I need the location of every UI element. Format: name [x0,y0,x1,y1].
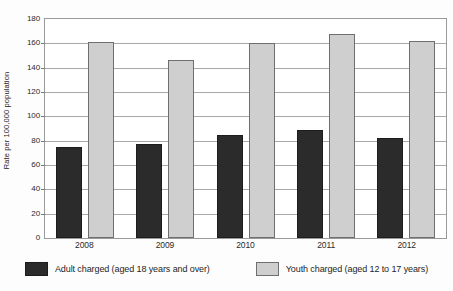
bar-adult-2009[interactable] [136,144,162,238]
y-tick-label-180: 180 [27,14,40,23]
y-tick-label-140: 140 [27,62,40,71]
bar-adult-2012[interactable] [377,138,403,238]
plot-wrapper: 180 160 140 120 100 80 60 40 20 0 [17,12,447,240]
legend-label-youth: Youth charged (aged 12 to 17 years) [286,264,428,274]
legend-swatch-youth-icon [256,262,279,276]
x-tick-label-2012: 2012 [366,240,447,250]
y-tick-label-100: 100 [27,111,40,120]
bar-youth-2008[interactable] [88,42,114,238]
bar-group-2012 [366,19,446,238]
bar-group-2010 [205,19,285,238]
y-tick-label-80: 80 [31,135,40,144]
y-tick-label-160: 160 [27,38,40,47]
x-tick-label-2010: 2010 [205,240,286,250]
y-tick-label-20: 20 [31,208,40,217]
bar-youth-2010[interactable] [249,43,275,238]
bar-adult-2008[interactable] [56,147,82,238]
y-axis-title-text: Rate per 100,000 population [3,71,12,168]
y-tick-label-60: 60 [31,160,40,169]
y-tick-label-0: 0 [36,233,40,242]
x-tick-label-2009: 2009 [125,240,206,250]
bar-group-2011 [286,19,366,238]
bar-youth-2009[interactable] [168,60,194,238]
chart-legend: Adult charged (aged 18 years and over) Y… [0,262,453,276]
bar-group-2008 [45,19,125,238]
x-tick-label-2011: 2011 [286,240,367,250]
bar-youth-2012[interactable] [409,41,435,238]
plot-area [44,18,447,239]
x-tick-label-2008: 2008 [44,240,125,250]
bar-chart: Rate per 100,000 population 180 160 140 … [0,0,453,291]
bar-youth-2011[interactable] [329,34,355,238]
bar-adult-2011[interactable] [297,130,323,238]
y-tick-label-120: 120 [27,87,40,96]
bar-adult-2010[interactable] [217,135,243,238]
y-axis-title: Rate per 100,000 population [0,0,14,240]
legend-label-adult: Adult charged (aged 18 years and over) [55,264,210,274]
legend-item-adult[interactable]: Adult charged (aged 18 years and over) [25,262,210,276]
legend-swatch-adult-icon [25,262,48,276]
y-axis-tick-labels: 180 160 140 120 100 80 60 40 20 0 [17,12,43,240]
legend-item-youth[interactable]: Youth charged (aged 12 to 17 years) [256,262,428,276]
y-tick-label-40: 40 [31,184,40,193]
bar-group-2009 [125,19,205,238]
bars-layer [45,19,446,238]
x-axis-tick-labels: 2008 2009 2010 2011 2012 [44,240,447,250]
